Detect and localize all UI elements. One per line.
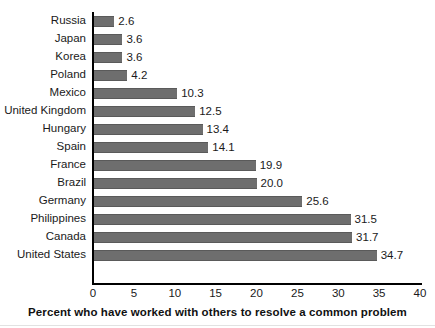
bar-value-label: 14.1: [212, 141, 234, 154]
bar-value-label: 20.0: [261, 177, 283, 190]
bar: 13.4: [93, 124, 203, 135]
category-label: Poland: [50, 66, 86, 84]
category-label: United Kingdom: [4, 102, 86, 120]
bar: 3.6: [93, 52, 122, 63]
bar-value-label: 3.6: [126, 33, 142, 46]
bar-row: Japan3.6: [0, 30, 435, 48]
x-tick-label: 5: [131, 286, 137, 300]
category-label: France: [50, 156, 86, 174]
x-tick-label: 10: [168, 286, 181, 300]
bar: 31.7: [93, 232, 352, 243]
bar-value-label: 31.7: [356, 231, 378, 244]
x-tick-label: 25: [291, 286, 304, 300]
bar: 25.6: [93, 196, 302, 207]
x-tick-label: 40: [414, 286, 427, 300]
bar: 12.5: [93, 106, 195, 117]
bar-row: France19.9: [0, 156, 435, 174]
bar-row: Spain14.1: [0, 138, 435, 156]
x-tick-label: 20: [250, 286, 263, 300]
bar-value-label: 19.9: [260, 159, 282, 172]
category-label: United States: [17, 246, 86, 264]
bar-row: Mexico10.3: [0, 84, 435, 102]
bar-fill: [93, 160, 256, 171]
category-label: Mexico: [50, 84, 86, 102]
plot-area: Russia2.6Japan3.6Korea3.6Poland4.2Mexico…: [0, 0, 435, 328]
bar-fill: [93, 88, 177, 99]
bar: 34.7: [93, 250, 377, 261]
category-label: Russia: [51, 12, 86, 30]
bar: 20.0: [93, 178, 257, 189]
category-label: Philippines: [30, 210, 86, 228]
bar: 31.5: [93, 214, 351, 225]
bar-fill: [93, 16, 114, 27]
bar-row: Korea3.6: [0, 48, 435, 66]
bar: 19.9: [93, 160, 256, 171]
bar-fill: [93, 178, 257, 189]
bar-row: United Kingdom12.5: [0, 102, 435, 120]
bar-chart: Russia2.6Japan3.6Korea3.6Poland4.2Mexico…: [0, 0, 435, 328]
category-label: Korea: [55, 48, 86, 66]
bar: 3.6: [93, 34, 122, 45]
bar-value-label: 34.7: [381, 249, 403, 262]
bar-value-label: 13.4: [207, 123, 229, 136]
bar-value-label: 12.5: [199, 105, 221, 118]
page-edge-line: [0, 325, 435, 326]
bar-fill: [93, 70, 127, 81]
bar-fill: [93, 196, 302, 207]
bar: 14.1: [93, 142, 208, 153]
category-label: Spain: [57, 138, 86, 156]
bar-row: Canada31.7: [0, 228, 435, 246]
bar: 2.6: [93, 16, 114, 27]
bar-row: Poland4.2: [0, 66, 435, 84]
x-axis-title: Percent who have worked with others to r…: [0, 305, 435, 319]
x-tick-label: 0: [90, 286, 96, 300]
bar-row: Hungary13.4: [0, 120, 435, 138]
bar-row: Germany25.6: [0, 192, 435, 210]
bar-value-label: 3.6: [126, 51, 142, 64]
category-label: Japan: [55, 30, 86, 48]
x-tick-label: 30: [332, 286, 345, 300]
bar-fill: [93, 214, 351, 225]
x-tick-label: 15: [209, 286, 222, 300]
bar-fill: [93, 52, 122, 63]
category-label: Brazil: [57, 174, 86, 192]
bar-fill: [93, 250, 377, 261]
bar-value-label: 10.3: [181, 87, 203, 100]
x-tick-label: 35: [373, 286, 386, 300]
category-label: Germany: [39, 192, 86, 210]
bar-row: United States34.7: [0, 246, 435, 264]
bar-fill: [93, 142, 208, 153]
bar-fill: [93, 124, 203, 135]
bar-row: Philippines31.5: [0, 210, 435, 228]
category-label: Canada: [46, 228, 86, 246]
x-axis-ticks: 0510152025303540: [0, 286, 435, 302]
bar-fill: [93, 106, 195, 117]
category-label: Hungary: [43, 120, 86, 138]
bar: 4.2: [93, 70, 127, 81]
bar: 10.3: [93, 88, 177, 99]
bar-value-label: 2.6: [118, 15, 134, 28]
bar-fill: [93, 34, 122, 45]
bar-value-label: 25.6: [306, 195, 328, 208]
bar-series: Russia2.6Japan3.6Korea3.6Poland4.2Mexico…: [0, 12, 435, 264]
bar-value-label: 31.5: [355, 213, 377, 226]
x-axis-line: [92, 283, 422, 285]
bar-fill: [93, 232, 352, 243]
bar-value-label: 4.2: [131, 69, 147, 82]
y-axis-line: [92, 12, 94, 283]
bar-row: Brazil20.0: [0, 174, 435, 192]
bar-row: Russia2.6: [0, 12, 435, 30]
